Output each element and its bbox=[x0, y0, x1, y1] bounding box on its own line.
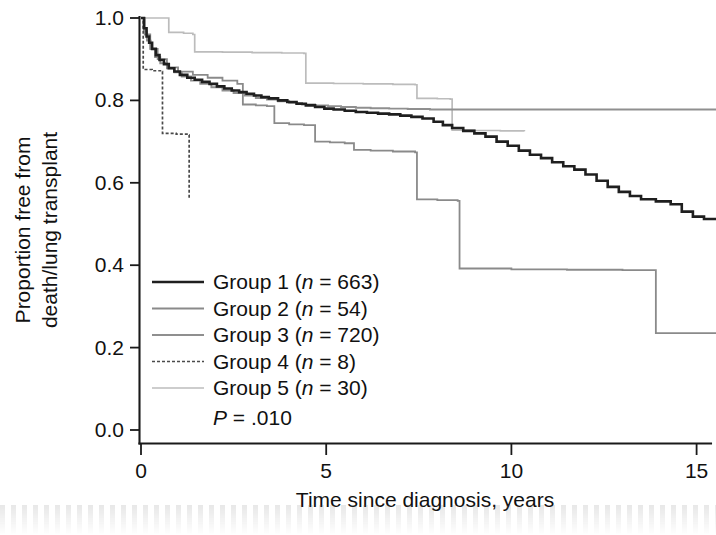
y-tick-label: 0.8 bbox=[95, 88, 124, 111]
legend-label-group-5: Group 5 (n = 30) bbox=[213, 376, 368, 399]
legend-label-group-2: Group 2 (n = 54) bbox=[213, 297, 368, 320]
y-tick-label: 0.6 bbox=[95, 171, 124, 194]
legend-label-group-1: Group 1 (n = 663) bbox=[213, 270, 379, 293]
legend-label-group-3: Group 3 (n = 720) bbox=[213, 323, 379, 346]
legend-label-group-4: Group 4 (n = 8) bbox=[213, 350, 356, 373]
y-axis-title: Proportion free from death/lung transpla… bbox=[11, 132, 61, 328]
km-curve-group-3 bbox=[141, 18, 716, 109]
y-tick-label: 0.0 bbox=[95, 418, 124, 441]
x-tick-label: 0 bbox=[135, 459, 147, 482]
y-axis-title-line2: death/lung transplant bbox=[38, 132, 61, 328]
km-curve-group-4 bbox=[141, 18, 189, 199]
x-tick-label: 5 bbox=[320, 459, 332, 482]
x-tick-group: 051015 bbox=[135, 444, 708, 483]
y-axis-title-line1: Proportion free from bbox=[11, 137, 34, 324]
y-tick-label: 0.2 bbox=[95, 336, 124, 359]
y-tick-label: 0.4 bbox=[95, 253, 125, 276]
y-tick-label: 1.0 bbox=[95, 6, 124, 29]
survival-curve-chart: 0.00.20.40.60.81.0 051015 Proportion fre… bbox=[0, 0, 716, 535]
y-tick-group: 0.00.20.40.60.81.0 bbox=[95, 6, 140, 441]
x-tick-label: 10 bbox=[500, 459, 523, 482]
figure-container: 0.00.20.40.60.81.0 051015 Proportion fre… bbox=[0, 0, 716, 535]
x-tick-label: 15 bbox=[685, 459, 708, 482]
chart-legend: Group 1 (n = 663)Group 2 (n = 54)Group 3… bbox=[152, 270, 379, 429]
x-axis-title: Time since diagnosis, years bbox=[296, 488, 554, 511]
p-value-annotation: P = .010 bbox=[213, 406, 292, 429]
km-curve-group-1 bbox=[141, 18, 716, 219]
